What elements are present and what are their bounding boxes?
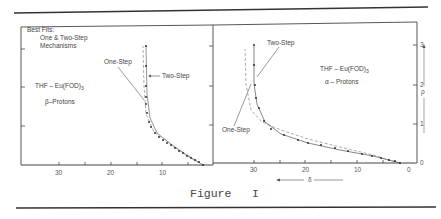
left-x-tick-10: 10 — [159, 169, 167, 176]
left-title-line-2: One & Two-Step — [40, 34, 88, 42]
one-step-leader — [234, 84, 251, 126]
left-two-step-label: Two-Step — [162, 72, 190, 80]
right-x-tick-20: 20 — [302, 166, 310, 173]
left-x-tick-20: 20 — [107, 169, 115, 176]
right-x-axis-label: δ — [308, 176, 312, 183]
figure-canvas: 30 20 10 Best Fits: One & Two-Step Mecha… — [0, 0, 441, 219]
right-y-tick-1: 1 — [420, 120, 424, 127]
right-one-step-label: One-Step — [222, 126, 250, 134]
delta-arrow-icon — [276, 179, 280, 182]
left-panel: 30 20 10 Best Fits: One & Two-Step Mecha… — [21, 25, 213, 176]
right-x-tick-30: 30 — [250, 166, 258, 173]
left-system-label: THF – Eu(FOD)3 — [35, 82, 84, 91]
left-proton-label: β–Protons — [45, 98, 76, 106]
left-x-tick-30: 30 — [55, 169, 63, 176]
right-panel: 3 2 1 0 30 20 10 0 δ ρ THF – Eu(FOD)3 α … — [213, 22, 426, 183]
right-y-axis-label: ρ — [421, 88, 425, 96]
right-panel-frame — [213, 22, 417, 163]
left-one-step-curve — [146, 46, 203, 165]
right-x-tick-10: 10 — [354, 166, 362, 173]
right-y-tick-0: 0 — [420, 159, 424, 166]
right-two-step-label: Two-Step — [267, 39, 295, 47]
bottom-rule — [16, 207, 436, 208]
two-step-leader — [257, 47, 279, 77]
right-data-points — [253, 44, 401, 164]
left-data-points — [145, 45, 204, 166]
left-title-line-3: Mechanisms — [40, 42, 77, 49]
right-system-label: THF – Eu(FOD)3 — [320, 65, 369, 74]
right-x-tick-0: 0 — [407, 166, 411, 173]
figure-caption: Figure I — [190, 187, 259, 200]
left-title-line-1: Best Fits: — [27, 26, 54, 33]
left-one-step-label: One-Step — [104, 58, 132, 66]
left-two-step-curve — [143, 46, 203, 165]
top-rule — [14, 7, 428, 13]
right-proton-label: α – Protons — [325, 78, 359, 85]
right-y-tick-2: 2 — [420, 81, 424, 88]
right-two-step-curve — [254, 45, 400, 163]
